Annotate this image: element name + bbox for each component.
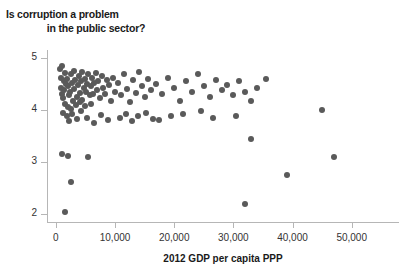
- data-point: [106, 82, 112, 88]
- data-point: [248, 98, 254, 104]
- data-point: [236, 78, 242, 84]
- x-tick-mark: [56, 222, 57, 228]
- data-point: [177, 98, 183, 104]
- data-point: [171, 85, 177, 91]
- data-point: [66, 118, 72, 124]
- data-point: [110, 75, 116, 81]
- data-point: [85, 154, 91, 160]
- data-point: [233, 113, 239, 119]
- data-point: [284, 172, 290, 178]
- data-point: [153, 81, 159, 87]
- data-point: [159, 91, 165, 97]
- data-points-layer: [47, 50, 399, 222]
- data-point: [219, 87, 225, 93]
- data-point: [254, 85, 260, 91]
- data-point: [115, 80, 121, 86]
- data-point: [118, 92, 124, 98]
- data-point: [168, 113, 174, 119]
- data-point: [213, 77, 219, 83]
- data-point: [133, 90, 139, 96]
- scatter-chart-figure: Is corruption a problem in the public se…: [0, 0, 406, 280]
- data-point: [130, 77, 136, 83]
- data-point: [248, 136, 254, 142]
- data-point: [263, 76, 269, 82]
- data-point: [129, 118, 135, 124]
- data-point: [108, 98, 114, 104]
- data-point: [121, 71, 127, 77]
- y-tick-label: 4: [7, 103, 37, 114]
- data-point: [62, 209, 68, 215]
- data-point: [319, 107, 325, 113]
- x-tick-label: 30,000: [203, 232, 263, 243]
- x-tick-label: 10,000: [85, 232, 145, 243]
- plot-area: [47, 50, 399, 222]
- data-point: [79, 97, 85, 103]
- data-point: [136, 69, 142, 75]
- data-point: [68, 179, 74, 185]
- data-point: [210, 115, 216, 121]
- data-point: [189, 89, 195, 95]
- data-point: [242, 201, 248, 207]
- chart-title: Is corruption a problem in the public se…: [6, 8, 186, 35]
- data-point: [84, 115, 90, 121]
- data-point: [165, 75, 171, 81]
- data-point: [59, 63, 65, 69]
- data-point: [135, 113, 141, 119]
- data-point: [201, 83, 207, 89]
- data-point: [331, 154, 337, 160]
- data-point: [95, 78, 101, 84]
- x-tick-mark: [293, 222, 294, 228]
- x-tick-mark: [233, 222, 234, 228]
- data-point: [156, 117, 162, 123]
- y-tick-label: 3: [7, 155, 37, 166]
- x-tick-mark: [174, 222, 175, 228]
- data-point: [74, 116, 80, 122]
- data-point: [105, 117, 111, 123]
- data-point: [242, 89, 248, 95]
- x-tick-label: 0: [26, 232, 86, 243]
- data-point: [127, 99, 133, 105]
- data-point: [65, 153, 71, 159]
- data-point: [180, 111, 186, 117]
- data-point: [142, 94, 148, 100]
- x-axis-line: [47, 222, 399, 223]
- data-point: [207, 94, 213, 100]
- x-tick-mark: [115, 222, 116, 228]
- x-tick-mark: [352, 222, 353, 228]
- data-point: [102, 91, 108, 97]
- data-point: [98, 112, 104, 118]
- data-point: [148, 87, 154, 93]
- x-tick-label: 50,000: [322, 232, 382, 243]
- data-point: [195, 71, 201, 77]
- y-tick-label: 2: [7, 207, 37, 218]
- x-axis-title: 2012 GDP per capita PPP: [47, 253, 399, 264]
- data-point: [145, 76, 151, 82]
- chart-title-line-1: Is corruption a problem: [6, 8, 186, 22]
- data-point: [91, 120, 97, 126]
- x-tick-label: 20,000: [144, 232, 204, 243]
- data-point: [139, 83, 145, 89]
- data-point: [88, 101, 94, 107]
- data-point: [198, 108, 204, 114]
- x-tick-label: 40,000: [263, 232, 323, 243]
- data-point: [123, 111, 129, 117]
- chart-title-line-2: in the public sector?: [6, 22, 186, 36]
- data-point: [117, 115, 123, 121]
- data-point: [143, 110, 149, 116]
- data-point: [124, 86, 130, 92]
- data-point: [224, 82, 230, 88]
- data-point: [78, 108, 84, 114]
- data-point: [230, 92, 236, 98]
- data-point: [183, 78, 189, 84]
- y-tick-label: 5: [7, 51, 37, 62]
